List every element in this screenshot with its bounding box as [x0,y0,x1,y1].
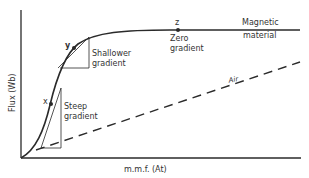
point-z-marker [176,28,180,32]
zero-annotation-line1: Zero [170,34,189,43]
magnetic-label-line2: material [243,31,276,40]
shallow-annotation-line1: Shallower [92,49,132,58]
y-axis-label: Flux (Wb) [8,74,17,112]
point-y-marker [72,46,76,50]
magnetisation-diagram: x y z Steep gradient Shallower gradient … [0,0,309,178]
steep-annotation-line1: Steep [64,102,87,111]
shallow-tangent-line [58,37,89,68]
shallow-annotation-line2: gradient [92,59,126,68]
x-axis-label: m.m.f. (At) [124,165,167,174]
point-x-marker [49,102,53,106]
magnetic-material-curve [21,30,300,158]
magnetic-label-line1: Magnetic [242,18,279,27]
point-x-label: x [43,97,48,106]
point-z-label: z [175,18,179,27]
steep-annotation-line2: gradient [64,112,98,121]
zero-annotation-line2: gradient [170,44,204,53]
point-y-label: y [65,41,71,50]
